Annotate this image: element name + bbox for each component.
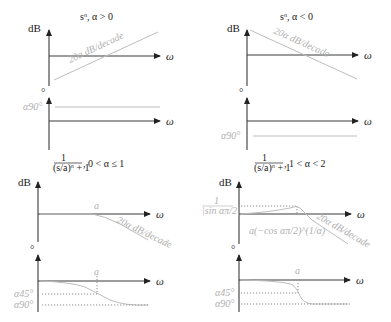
panel-title: sᵅ, α < 0 [280, 11, 313, 22]
y-axis-label: dB [219, 176, 232, 188]
slope-label: 20α dB/decade [115, 214, 174, 250]
x-axis-label: ω [166, 115, 174, 127]
panel-title: sᵅ, α > 0 [80, 11, 113, 22]
y-axis-label: ° [41, 86, 45, 98]
phase-level-90-label: α90° [215, 298, 234, 309]
phase-level-45-label: α45° [14, 288, 33, 299]
title-condition: , 1 < α < 2 [284, 158, 326, 169]
phase-plot: ° ω a α45° α90° [14, 243, 164, 312]
corner-frequency-label: a [94, 200, 99, 211]
phase-level-90-label: α90° [14, 299, 33, 310]
panel-s-alpha-negative: sᵅ, α < 0 dB ω 20α dB/decade ° ω α90° [221, 11, 372, 150]
phase-plot: ° ω a α45° α90° [215, 243, 364, 312]
slope-label: 20α dB/decade [66, 29, 125, 65]
panel-title: 1 (s/a)ᵅ + 1 , 0 < α ≤ 1 [53, 152, 124, 174]
magnitude-plot: dB ω 20α dB/decade [28, 22, 174, 86]
phase-plot: ° ω α90° [221, 86, 372, 150]
y-axis-label: dB [18, 176, 31, 188]
y-axis-label: dB [227, 22, 240, 34]
x-axis-label: ω [356, 274, 364, 286]
phase-plot: ° ω α90° [23, 86, 174, 150]
x-axis-label: ω [357, 208, 365, 220]
y-axis-label: dB [28, 22, 41, 34]
panel-fractional-lowpass-high-order: 1 (s/a)ᵅ + 1 , 1 < α < 2 dB ω 1 |sin απ/… [202, 152, 373, 312]
x-axis-label: ω [364, 115, 372, 127]
y-axis-label: ° [231, 243, 235, 255]
corner-frequency-label: a [94, 266, 99, 277]
title-condition: , 0 < α ≤ 1 [83, 158, 124, 169]
panel-s-alpha-positive: sᵅ, α > 0 dB ω 20α dB/decade ° ω α90° [23, 11, 174, 150]
phase-level-45-label: α45° [215, 287, 234, 298]
phase-curve [40, 281, 148, 305]
peak-frequency-label: a(−cos απ/2)^(1/α) [249, 225, 326, 237]
phase-level-label: α90° [221, 130, 240, 141]
corner-frequency-label: a [295, 265, 300, 276]
y-axis-label: ° [30, 243, 34, 255]
x-axis-label: ω [166, 50, 174, 62]
phase-level-label: α90° [23, 101, 42, 112]
magnitude-plot: dB ω a 20α dB/decade [18, 176, 174, 250]
magnitude-plot: dB ω 20α dB/decade [227, 22, 372, 86]
x-axis-label: ω [156, 208, 164, 220]
panel-fractional-lowpass-low-order: 1 (s/a)ᵅ + 1 , 0 < α ≤ 1 dB ω a 20α dB/d… [14, 152, 174, 312]
panel-title: 1 (s/a)ᵅ + 1 , 1 < α < 2 [254, 152, 326, 174]
y-axis-label: ° [239, 86, 243, 98]
magnitude-plot: dB ω 1 |sin απ/2| a(−cos απ/2)^(1/α) 20α… [202, 176, 373, 250]
x-axis-label: ω [156, 275, 164, 287]
phase-curve [241, 280, 348, 304]
bode-diagram-figure: sᵅ, α > 0 dB ω 20α dB/decade ° ω α90° sᵅ… [0, 0, 391, 322]
x-axis-label: ω [364, 49, 372, 61]
peak-denominator: |sin απ/2| [202, 205, 240, 216]
